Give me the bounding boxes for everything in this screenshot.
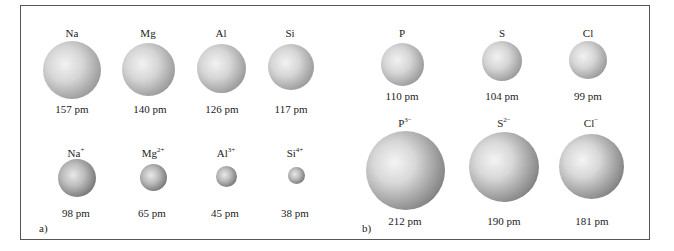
ion-radius: 65 pm xyxy=(138,207,166,219)
ion-symbol: P3− xyxy=(398,116,412,129)
atom-symbol: Mg xyxy=(140,27,155,39)
atom-radius: 110 pm xyxy=(386,90,419,102)
atom-sphere xyxy=(569,41,607,79)
ion-radius: 45 pm xyxy=(211,207,239,219)
ion-symbol: Cl− xyxy=(584,116,598,129)
atom-sphere xyxy=(482,41,522,81)
atom-radius: 157 pm xyxy=(55,103,88,115)
atom-symbol: S xyxy=(499,27,505,39)
ion-radius: 98 pm xyxy=(62,207,90,219)
atom-symbol: Cl xyxy=(583,27,593,39)
atom-sphere xyxy=(122,43,175,96)
ion-sphere xyxy=(366,131,445,210)
ion-radius: 181 pm xyxy=(575,215,608,227)
ion-sphere xyxy=(58,159,96,197)
atom-radius: 126 pm xyxy=(205,103,238,115)
ion-symbol: Mg2+ xyxy=(142,146,165,159)
panel-label-b: b) xyxy=(362,222,371,234)
ion-sphere xyxy=(216,166,237,187)
ion-radius: 212 pm xyxy=(388,215,421,227)
ion-symbol: S2− xyxy=(497,116,511,129)
atom-radius: 117 pm xyxy=(275,103,308,115)
atom-sphere xyxy=(268,44,314,90)
atom-symbol: Al xyxy=(216,27,227,39)
atom-radius: 140 pm xyxy=(133,103,166,115)
ion-sphere xyxy=(559,134,624,199)
atom-symbol: Si xyxy=(285,27,294,39)
atom-radius: 104 pm xyxy=(485,90,518,102)
atom-sphere xyxy=(381,43,424,86)
atom-symbol: Na xyxy=(66,27,79,39)
atom-sphere xyxy=(197,44,246,93)
ion-symbol: Na+ xyxy=(68,146,85,159)
figure-frame xyxy=(20,5,650,240)
atom-symbol: P xyxy=(399,27,405,39)
panel-label-a: a) xyxy=(39,222,48,234)
ion-radius: 38 pm xyxy=(281,207,309,219)
ion-sphere xyxy=(469,132,539,202)
ion-sphere xyxy=(140,164,167,191)
atom-radius: 99 pm xyxy=(574,90,602,102)
ion-symbol: Al3+ xyxy=(217,146,235,159)
ion-symbol: Si4+ xyxy=(287,146,304,159)
atom-sphere xyxy=(43,41,101,99)
ion-sphere xyxy=(288,167,305,184)
ion-radius: 190 pm xyxy=(487,215,520,227)
